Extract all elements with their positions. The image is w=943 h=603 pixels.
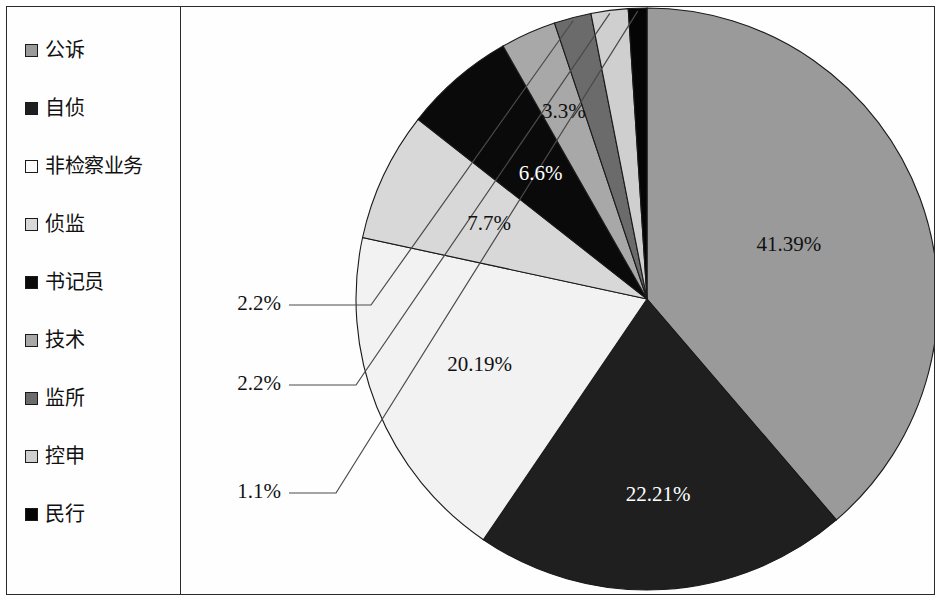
legend-item: 控申 [25,427,180,485]
legend-item: 民行 [25,485,180,543]
pie-slice-label: 6.6% [519,161,563,185]
legend-item-label: 书记员 [45,272,104,292]
pie-slice-label: 20.19% [447,352,512,376]
legend-item-label: 自侦 [45,98,84,118]
chart-frame: 公诉 自侦 非检察业务 侦监 书记员 技术 监所 控申 [6,6,935,595]
legend-swatch [25,450,38,463]
legend-item: 技术 [25,311,180,369]
legend-item-label: 非检察业务 [45,156,143,176]
legend-item: 监所 [25,369,180,427]
legend-item: 公诉 [25,21,180,79]
legend-item-label: 技术 [45,330,84,350]
pie-slice-label: 7.7% [467,211,511,235]
legend-swatch [25,44,38,57]
legend-item: 自侦 [25,79,180,137]
legend-swatch [25,392,38,405]
legend-item: 侦监 [25,195,180,253]
pie-chart-plot-area: 41.39%22.21%20.19%7.7%6.6%3.3%2.2%2.2%1.… [181,7,934,594]
pie-slice-label: 22.21% [626,482,691,506]
legend-item: 书记员 [25,253,180,311]
legend-item-label: 控申 [45,446,84,466]
legend-swatch [25,218,38,231]
legend-swatch [25,160,38,173]
pie-slice-label: 3.3% [542,99,586,123]
legend-swatch [25,334,38,347]
legend-swatch [25,508,38,521]
legend-item-label: 民行 [45,504,84,524]
pie-callout-label: 2.2% [237,371,281,395]
pie-callout-label: 1.1% [237,479,281,503]
legend-item-label: 侦监 [45,214,84,234]
legend-item-label: 监所 [45,388,84,408]
legend-swatch [25,276,38,289]
legend-item: 非检察业务 [25,137,180,195]
legend-item-label: 公诉 [45,40,84,60]
pie-chart-svg: 41.39%22.21%20.19%7.7%6.6%3.3%2.2%2.2%1.… [181,7,934,596]
pie-callout-label: 2.2% [237,291,281,315]
pie-slice-label: 41.39% [757,232,822,256]
legend-swatch [25,102,38,115]
chart-legend: 公诉 自侦 非检察业务 侦监 书记员 技术 监所 控申 [7,7,181,594]
